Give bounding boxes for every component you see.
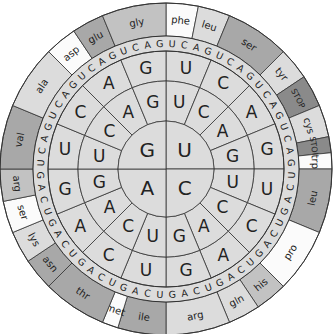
second-base-letter: U (261, 179, 273, 199)
amino-acid-label-phe: phe (171, 14, 191, 27)
third-base-letter: G (156, 38, 164, 49)
first-base-ring: UCAGUCAGUCAGUCAGUCAG (78, 81, 254, 257)
second-base-letter: A (246, 102, 258, 122)
middle-base-letter: U (147, 226, 159, 246)
amino-acid-label-trp: trp (309, 154, 321, 169)
middle-base-letter: G (173, 226, 186, 246)
middle-base-letter: U (173, 92, 185, 112)
second-base-letter: C (74, 102, 86, 122)
middle-base-letter: A (104, 197, 116, 217)
second-base-letter: C (103, 245, 115, 265)
first-base-letter-g: G (140, 138, 156, 162)
third-base-letter: U (286, 171, 297, 179)
second-base-letter: G (180, 260, 193, 280)
amino-acid-label-arg: arg (11, 175, 24, 192)
middle-base-letter: C (104, 121, 116, 141)
genetic-code-wheel: pheleusertyrSTOPcysSTOPtrpleuprohisglnar… (0, 0, 336, 334)
middle-base-letter: A (217, 121, 229, 141)
second-base-letter: U (180, 58, 192, 78)
first-base-letter-c: C (178, 176, 192, 200)
second-base-letter: A (103, 73, 115, 93)
second-base-letter: A (75, 216, 87, 236)
third-base-letter: U (156, 289, 164, 300)
third-base-letter: U (168, 38, 176, 49)
first-base-letter-u: U (177, 138, 192, 162)
second-base-letter: U (59, 139, 71, 159)
middle-base-letter: C (198, 102, 210, 122)
third-base-letter: G (35, 171, 46, 179)
second-base-letter: G (139, 58, 152, 78)
middle-base-letter: G (93, 172, 106, 192)
middle-base-letter: A (198, 216, 210, 236)
middle-base-letter: G (226, 146, 239, 166)
second-base-letter: C (246, 216, 258, 236)
amino-acid-label-ile: ile (137, 311, 150, 324)
third-base-letter: G (286, 159, 297, 167)
second-base-letter: G (260, 139, 273, 159)
middle-base-letter: U (226, 172, 238, 192)
third-base-letter: U (35, 159, 46, 167)
middle-base-letter: U (93, 146, 105, 166)
middle-base-letter: C (217, 197, 229, 217)
first-base-letter-a: A (140, 176, 154, 200)
second-base-letter: U (140, 260, 152, 280)
middle-base-letter: A (122, 102, 134, 122)
middle-base-letter: C (122, 216, 134, 236)
middle-base-letter: G (146, 92, 159, 112)
second-base-letter: A (217, 245, 229, 265)
second-base-letter: C (217, 73, 229, 93)
third-base-letter: G (168, 289, 176, 300)
second-base-letter: G (58, 179, 71, 199)
